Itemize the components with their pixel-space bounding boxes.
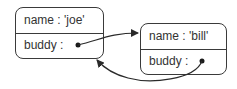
arrow-bill-to-joe [97,60,202,81]
arrow-joe-to-bill [78,33,138,45]
reference-arrows [0,0,237,89]
